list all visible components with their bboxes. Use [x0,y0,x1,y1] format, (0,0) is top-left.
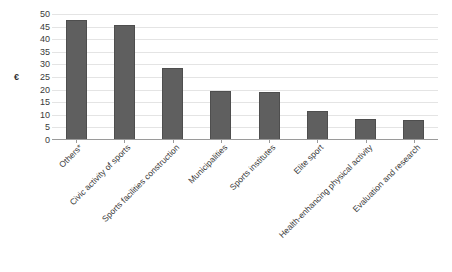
bar-slot [342,14,390,140]
bar[interactable] [114,25,135,140]
bar[interactable] [307,111,328,140]
plot-area [52,14,438,140]
bar-slot [52,14,100,140]
y-axis-unit-label: € [14,72,19,82]
y-tick-label: 15 [40,98,50,107]
y-tick-label: 20 [40,85,50,94]
x-axis-label: Health-enhancing physical activity [277,143,374,240]
y-tick-label: 50 [40,10,50,19]
bar-slot [100,14,148,140]
bar[interactable] [66,20,87,140]
bar-slot [390,14,438,140]
y-tick-label: 5 [45,123,50,132]
x-axis-label: Municipalities [187,143,229,185]
bar-chart: € 50454035302520151050 Others*Civic acti… [0,0,452,272]
bar-slot [197,14,245,140]
bar[interactable] [403,120,424,140]
x-axis-line [52,139,438,140]
bar[interactable] [210,91,231,140]
y-tick-label: 25 [40,73,50,82]
bar-slot [245,14,293,140]
bar[interactable] [162,68,183,140]
y-axis: 50454035302520151050 [26,14,50,140]
bar[interactable] [259,92,280,140]
y-tick-label: 30 [40,60,50,69]
x-axis-label: Sports institutes [228,143,277,192]
y-tick-label: 10 [40,110,50,119]
bar-slot [149,14,197,140]
bar-series [52,14,438,140]
bar-slot [293,14,341,140]
y-tick-label: 45 [40,22,50,31]
bar[interactable] [355,119,376,140]
y-tick-label: 0 [45,136,50,145]
x-axis-label: Others* [58,143,85,170]
y-tick-label: 40 [40,35,50,44]
x-axis-label: Elite sport [293,143,326,176]
y-tick-label: 35 [40,47,50,56]
x-axis-category-labels: Others*Civic activity of sportsSports fa… [52,141,438,269]
